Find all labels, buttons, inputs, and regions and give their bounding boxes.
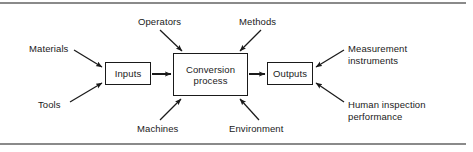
label-human-inspection-performance: Human inspection performance <box>348 99 426 122</box>
label-machines: Machines <box>137 123 178 135</box>
arrow-operators-to-conversion <box>160 30 182 51</box>
label-measurement-instruments: Measurement instruments <box>348 43 407 66</box>
arrow-measurement-to-outputs <box>316 50 344 67</box>
label-methods: Methods <box>239 16 276 28</box>
arrow-human-inspection-to-outputs <box>316 83 344 102</box>
arrow-methods-to-conversion <box>240 30 261 51</box>
arrow-machines-to-conversion <box>160 99 181 120</box>
node-inputs[interactable]: Inputs <box>105 62 151 85</box>
node-conversion-process[interactable]: Conversion process <box>173 53 248 96</box>
label-operators: Operators <box>138 16 181 28</box>
label-environment: Environment <box>229 123 283 135</box>
node-outputs[interactable]: Outputs <box>267 62 313 85</box>
arrow-tools-to-inputs <box>70 83 102 102</box>
label-tools: Tools <box>38 99 61 111</box>
figure-root: Inputs Conversion process Outputs Materi… <box>0 0 473 152</box>
label-materials: Materials <box>29 43 68 55</box>
arrow-materials-to-inputs <box>74 50 102 67</box>
arrow-environment-to-conversion <box>240 99 259 120</box>
